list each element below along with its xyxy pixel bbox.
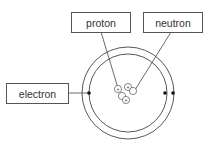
outer-shell	[82, 47, 174, 139]
svg-text:+: +	[117, 86, 120, 92]
nucleus: + + +	[114, 83, 136, 103]
neutron-label: neutron	[143, 12, 203, 33]
electron-dot	[171, 91, 175, 95]
electron-dot	[163, 91, 167, 95]
electron-label: electron	[6, 83, 69, 104]
proton-leader-line	[101, 32, 118, 88]
inner-shell	[89, 54, 167, 132]
svg-text:+: +	[125, 97, 128, 103]
proton-label: proton	[71, 12, 131, 33]
svg-text:+: +	[127, 84, 130, 90]
electron-dot	[87, 91, 91, 95]
